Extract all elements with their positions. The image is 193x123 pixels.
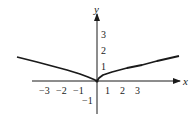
y-tick-label: 2 bbox=[101, 45, 106, 56]
x-tick-label: 1 bbox=[105, 85, 110, 96]
y-tick-label: −1 bbox=[82, 95, 93, 106]
curve-line bbox=[17, 56, 179, 81]
y-axis-label: y bbox=[93, 3, 99, 15]
x-tick-label: 3 bbox=[135, 85, 140, 96]
cusp-curve-plot: x y −3 −2 −1 1 2 3 3 2 1 −1 bbox=[0, 0, 193, 123]
origin-point bbox=[95, 79, 98, 82]
y-tick-label: 3 bbox=[101, 29, 106, 40]
y-tick-label: 1 bbox=[101, 61, 106, 72]
x-tick-label: 2 bbox=[120, 85, 125, 96]
x-tick-label: −3 bbox=[39, 85, 50, 96]
x-tick-label: −2 bbox=[56, 85, 67, 96]
x-axis-label: x bbox=[182, 75, 188, 87]
